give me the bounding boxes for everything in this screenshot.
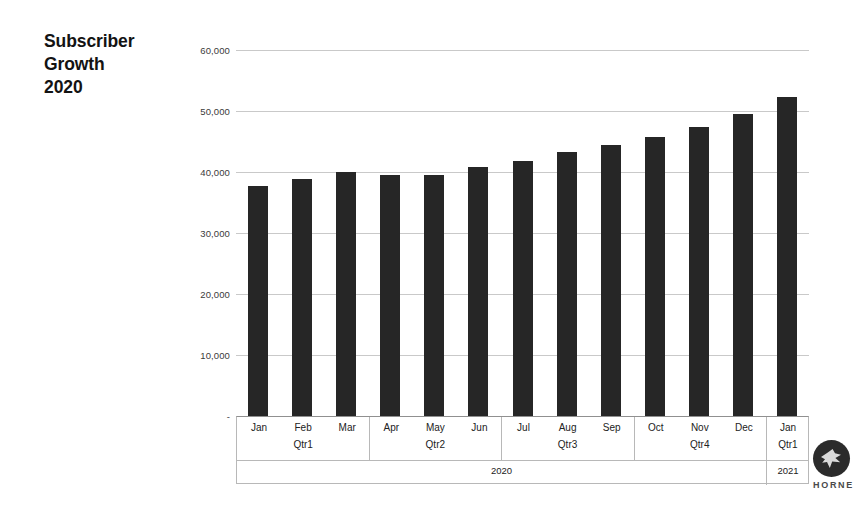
x-axis-month-label: May bbox=[413, 417, 457, 433]
bar bbox=[557, 152, 577, 416]
title-line-2: Growth bbox=[44, 53, 184, 76]
y-axis-tick-label: 40,000 bbox=[200, 167, 230, 178]
x-axis-month-label: Nov bbox=[678, 417, 722, 433]
x-axis-month-label: Mar bbox=[325, 417, 369, 433]
title-line-3: 2020 bbox=[44, 76, 184, 99]
x-axis-month-label: Jun bbox=[457, 417, 501, 433]
bar bbox=[601, 145, 621, 416]
x-axis-month-label: Oct bbox=[634, 417, 678, 433]
axis-row-divider bbox=[237, 460, 808, 461]
x-axis-month-label: Sep bbox=[590, 417, 634, 433]
x-axis-month-label: Apr bbox=[369, 417, 413, 433]
brand-logo: HORNE bbox=[813, 440, 856, 490]
bar-series bbox=[236, 50, 809, 416]
x-axis-month-label: Feb bbox=[281, 417, 325, 433]
x-axis-month-label: Jan bbox=[237, 417, 281, 433]
bar bbox=[645, 137, 665, 416]
bar bbox=[777, 97, 797, 416]
bar bbox=[380, 175, 400, 416]
x-axis-month-label: Jan bbox=[766, 417, 810, 433]
hornet-logo-icon bbox=[813, 440, 850, 477]
y-axis: 60,00050,00040,00030,00020,00010,000- bbox=[186, 50, 230, 416]
bar bbox=[248, 186, 268, 416]
y-axis-tick-label: 60,000 bbox=[200, 45, 230, 56]
y-axis-tick-label: 10,000 bbox=[200, 350, 230, 361]
x-axis-quarter-label: Qtr3 bbox=[501, 439, 633, 450]
y-axis-tick-label: 50,000 bbox=[200, 106, 230, 117]
x-axis-year-label: 2020 bbox=[237, 465, 766, 476]
page-title: Subscriber Growth 2020 bbox=[44, 30, 184, 99]
x-axis-month-label: Jul bbox=[501, 417, 545, 433]
title-line-1: Subscriber bbox=[44, 30, 184, 53]
bar bbox=[733, 114, 753, 416]
plot-area bbox=[236, 50, 809, 416]
x-axis-quarter-label: Qtr1 bbox=[766, 439, 810, 450]
x-axis-quarter-label: Qtr4 bbox=[634, 439, 766, 450]
bar bbox=[336, 172, 356, 416]
y-axis-tick-label: 30,000 bbox=[200, 228, 230, 239]
x-axis-month-label: Aug bbox=[546, 417, 590, 433]
y-axis-tick-label: - bbox=[227, 411, 230, 422]
x-axis-year-label: 2021 bbox=[766, 465, 810, 476]
bar bbox=[292, 179, 312, 416]
bar bbox=[424, 175, 444, 416]
bar bbox=[689, 127, 709, 416]
x-axis-quarter-label: Qtr1 bbox=[237, 439, 369, 450]
bar bbox=[513, 161, 533, 416]
bar bbox=[468, 167, 488, 416]
y-axis-tick-label: 20,000 bbox=[200, 289, 230, 300]
x-axis-month-label: Dec bbox=[722, 417, 766, 433]
x-axis-quarter-label: Qtr2 bbox=[369, 439, 501, 450]
logo-wordmark: HORNE bbox=[813, 480, 856, 490]
x-axis: JanFebMarAprMayJunJulAugSepOctNovDecJanQ… bbox=[236, 416, 809, 484]
